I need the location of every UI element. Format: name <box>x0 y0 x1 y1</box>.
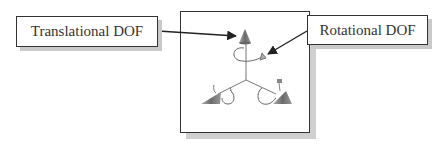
translational-dof-text: Translational DOF <box>31 23 143 40</box>
translational-handle-top-icon[interactable] <box>239 29 251 45</box>
translational-dof-label: Translational DOF <box>16 16 158 47</box>
rotational-callout-arrow <box>268 31 307 54</box>
rotational-handle-top-icon[interactable] <box>234 48 266 61</box>
triad-axes <box>218 42 276 94</box>
rotational-handle-right-icon[interactable] <box>258 88 276 104</box>
rotational-dof-text: Rotational DOF <box>319 22 415 39</box>
translational-handle-left-icon[interactable] <box>201 85 221 104</box>
translational-callout-arrow <box>158 31 236 36</box>
rotational-dof-label: Rotational DOF <box>307 15 428 45</box>
translational-handle-right-icon[interactable] <box>273 79 292 104</box>
